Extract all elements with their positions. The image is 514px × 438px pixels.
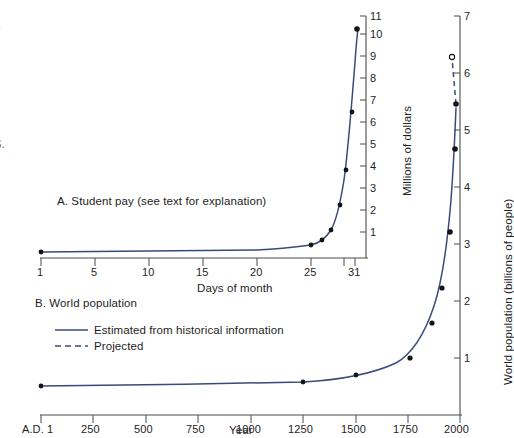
panel-b-ytick-2: 2: [464, 295, 470, 307]
panel-b-caption: B. World population: [35, 297, 137, 309]
panel-a-ytick-9: 9: [370, 50, 376, 62]
panel-b-ytick-6: 6: [464, 67, 470, 79]
panel-a-ytick-10: 10: [370, 28, 382, 40]
panel-a-caption: A. Student pay (see text for explanation…: [57, 195, 266, 207]
panel-a-ytick-6: 6: [370, 116, 376, 128]
panel-a-axes: [40, 16, 368, 266]
panel-a-ytick-7: 7: [370, 94, 376, 106]
panel-b-xtick-2000: 2000: [444, 423, 469, 435]
panel-a-xtick-25: 25: [304, 266, 316, 278]
panel-a-ytick-4: 4: [370, 160, 376, 172]
panel-a-ytick-1: 1: [370, 226, 376, 238]
panel-a-xtick-15: 15: [196, 266, 208, 278]
student-pay-curve: [41, 29, 358, 252]
panel-a-curve-group: [41, 29, 358, 252]
panel-a-xtick-31: 31: [348, 266, 360, 278]
panel-a-y-axis-title: Millions of dollars: [401, 106, 413, 196]
panel-a-ytick-3: 3: [370, 182, 376, 194]
world-population-curve-projected: [452, 58, 456, 104]
legend-label-projected: Projected: [94, 340, 143, 352]
panel-b-ytick-5: 5: [464, 124, 470, 136]
panel-b-y-axis-title: World population (billions of people): [502, 199, 514, 385]
panel-b-xtick-1750: 1750: [393, 423, 418, 435]
panel-a-ytick-11: 11: [370, 10, 382, 22]
panel-a-x-axis-title: Days of month: [197, 282, 272, 294]
panel-a-ytick-5: 5: [370, 138, 376, 150]
panel-b-xtick-1500: 1500: [341, 423, 366, 435]
panel-b-x-axis-title: Year: [229, 424, 253, 436]
panel-a-xtick-10: 10: [142, 266, 154, 278]
panel-a-ytick-8: 8: [370, 72, 376, 84]
panel-b-markers: [39, 54, 459, 388]
panel-b-ytick-1: 1: [464, 352, 470, 364]
panel-b-ytick-4: 4: [464, 181, 470, 193]
panel-a-ytick-2: 2: [370, 204, 376, 216]
panel-b-xtick-1250: 1250: [288, 423, 313, 435]
panel-b-xtick-250: 250: [81, 423, 100, 435]
panel-b-xtick-ad1: A.D. 1: [22, 423, 53, 435]
panel-a-markers: [39, 26, 360, 254]
legend-label-estimated: Estimated from historical information: [94, 324, 284, 336]
panel-a-xtick-1: 1: [37, 266, 43, 278]
panel-b-legend-swatches: [55, 330, 88, 346]
panel-a-xtick-20: 20: [250, 266, 262, 278]
panel-b-ytick-3: 3: [464, 238, 470, 250]
panel-a-xtick-5: 5: [91, 266, 97, 278]
panel-b-ytick-7: 7: [464, 10, 470, 22]
panel-b-xtick-500: 500: [134, 423, 153, 435]
panel-b-xtick-750: 750: [186, 423, 205, 435]
